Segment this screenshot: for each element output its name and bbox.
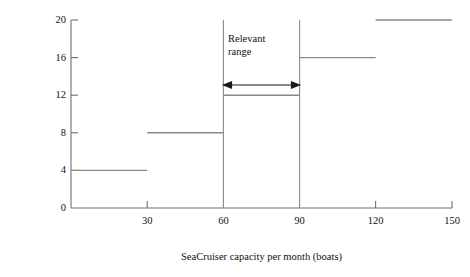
y-tick-label-16: 16	[40, 53, 66, 64]
relevant-range-arrow	[223, 82, 299, 88]
y-tick-marks	[71, 20, 78, 170]
relevant-range-annotation: Relevant range	[228, 33, 265, 58]
relevant-range-line-2: range	[228, 46, 265, 59]
y-tick-label-0: 0	[40, 203, 66, 214]
x-tick-label-90: 90	[283, 216, 317, 227]
x-axis-title: SeaCruiser capacity per month (boats)	[71, 251, 452, 262]
x-tick-label-30: 30	[130, 216, 164, 227]
y-tick-label-12: 12	[40, 90, 66, 101]
y-tick-label-20: 20	[40, 15, 66, 26]
relevant-range-line-1: Relevant	[228, 33, 265, 46]
y-tick-label-4: 4	[40, 165, 66, 176]
x-tick-label-60: 60	[206, 216, 240, 227]
x-tick-label-150: 150	[435, 216, 469, 227]
y-tick-label-8: 8	[40, 128, 66, 139]
step-cost-chart: 20 16 12 8 4 0 30 60 90 120 150 Deprecia…	[0, 0, 470, 277]
x-tick-label-120: 120	[359, 216, 393, 227]
